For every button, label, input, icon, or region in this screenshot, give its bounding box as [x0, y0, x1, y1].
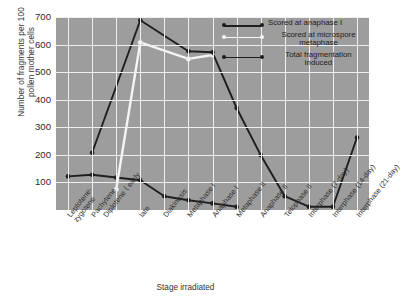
- legend-label: Total fragmentationinduced: [268, 51, 369, 68]
- gridline-vertical: [164, 17, 165, 210]
- legend-line: [224, 25, 262, 27]
- legend-label-line2: metaphase: [299, 38, 338, 47]
- legend-line: [224, 37, 262, 39]
- legend-marker: [221, 34, 265, 41]
- legend-marker: [221, 54, 265, 61]
- gridline-vertical: [188, 17, 189, 210]
- legend-item: Scored at anaphase I: [221, 19, 369, 28]
- gridline-vertical: [92, 17, 93, 210]
- y-tick-label: 200: [10, 149, 51, 160]
- legend-dot: [222, 35, 226, 39]
- legend-marker: [221, 22, 265, 29]
- legend-label: Scored at anaphase I: [268, 19, 369, 28]
- legend-dot: [222, 55, 226, 59]
- legend-line: [224, 57, 262, 59]
- legend-dot: [260, 35, 264, 39]
- y-axis-title-line2: pollen mother cells: [27, 27, 36, 97]
- legend-dot: [222, 23, 226, 27]
- gridline-vertical: [213, 17, 214, 210]
- legend-label-line2: induced: [305, 58, 332, 67]
- y-tick-label: 100: [10, 176, 51, 187]
- legend-dot: [260, 55, 264, 59]
- gridline-vertical: [68, 17, 69, 210]
- gridline-vertical: [140, 17, 141, 210]
- y-axis-title-line1: Number of fragments per 100: [17, 7, 26, 117]
- legend-item: Scored at microsporemetaphase: [221, 31, 369, 48]
- y-axis-title: Number of fragments per 100 pollen mothe…: [17, 0, 37, 147]
- legend-label: Scored at microsporemetaphase: [268, 31, 369, 48]
- legend-dot: [260, 23, 264, 27]
- chart-legend: Scored at anaphase IScored at microspore…: [221, 19, 369, 71]
- x-axis-title: Stage irradiated: [0, 283, 371, 292]
- gridline-vertical: [116, 17, 117, 210]
- legend-item: Total fragmentationinduced: [221, 51, 369, 68]
